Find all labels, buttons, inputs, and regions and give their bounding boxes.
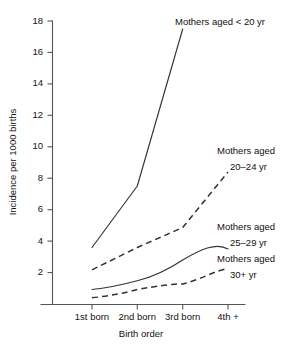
y-tick-label-8: 8 [38, 172, 43, 183]
x-tick-label-2nd-born: 2nd born [119, 311, 157, 322]
x-axis-title: Birth order [119, 328, 163, 339]
y-axis-title: Incidence per 1000 births [7, 108, 18, 215]
series-line-20-24 [92, 172, 228, 270]
series-label-25-29-line2: 25–29 yr [230, 237, 267, 248]
y-tick-label-4: 4 [38, 235, 43, 246]
x-axis-ticks [92, 305, 228, 310]
y-tick-label-10: 10 [32, 140, 43, 151]
x-tick-label-1st-born: 1st born [75, 311, 109, 322]
y-axis-ticks [48, 21, 53, 273]
chart-figure: 18 16 14 12 10 8 6 4 2 Incidence per 100… [0, 0, 299, 345]
series-label-under-20: Mothers aged < 20 yr [175, 16, 265, 27]
series-label-20-24-line2: 20–24 yr [230, 161, 267, 172]
x-tick-label-4th-plus: 4th + [217, 311, 239, 322]
series-label-30-plus-line2: 30+ yr [230, 269, 257, 280]
y-tick-label-14: 14 [32, 77, 43, 88]
y-tick-label-18: 18 [32, 15, 43, 26]
y-tick-label-6: 6 [38, 203, 43, 214]
line-chart: 18 16 14 12 10 8 6 4 2 Incidence per 100… [0, 0, 299, 345]
series-line-under-20 [92, 29, 183, 248]
series-label-30-plus-line1: Mothers aged [217, 253, 275, 264]
y-tick-label-2: 2 [38, 266, 43, 277]
x-tick-label-3rd-born: 3rd born [165, 311, 200, 322]
series-line-25-29 [92, 246, 228, 289]
series-label-25-29-line1: Mothers aged [217, 221, 275, 232]
y-tick-label-12: 12 [32, 109, 43, 120]
series-label-20-24-line1: Mothers aged [217, 145, 275, 156]
y-tick-label-16: 16 [32, 46, 43, 57]
